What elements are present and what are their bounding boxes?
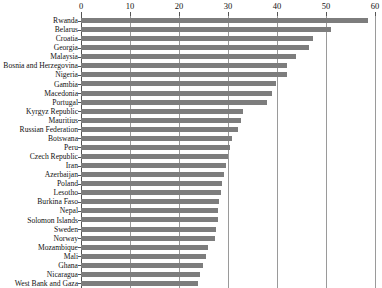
bar: [81, 100, 267, 105]
bar: [81, 208, 218, 213]
bar: [81, 145, 230, 150]
category-label: Croatia: [56, 34, 78, 43]
bar-row: [81, 25, 375, 34]
category-label: Macedonia: [44, 89, 78, 98]
category-label: Solomon Islands: [27, 216, 78, 225]
category-label: Rwanda: [53, 16, 78, 25]
bar: [81, 118, 241, 123]
bar-row: [81, 79, 375, 88]
bar: [81, 227, 216, 232]
category-label: Burkina Faso: [37, 197, 78, 206]
bar-row: [81, 279, 375, 288]
bar-row: [81, 152, 375, 161]
bar: [81, 63, 287, 68]
bar-row: [81, 252, 375, 261]
bar-row: [81, 234, 375, 243]
bar: [81, 27, 331, 32]
category-label: Nigeria: [55, 70, 78, 79]
bar: [81, 91, 272, 96]
category-label: Nicaragua: [47, 270, 78, 279]
category-label: Bosnia and Herzegovina: [3, 61, 78, 70]
bar: [81, 172, 224, 177]
bar-row: [81, 197, 375, 206]
bar-row: [81, 52, 375, 61]
category-label: Malaysia: [50, 52, 78, 61]
category-label: Gambia: [54, 80, 78, 89]
bar: [81, 109, 243, 114]
category-label: Czech Republic: [30, 152, 78, 161]
bar: [81, 54, 296, 59]
bar: [81, 217, 218, 222]
bar-row: [81, 43, 375, 52]
bar-row: [81, 70, 375, 79]
category-label: Mozambique: [38, 243, 78, 252]
category-label: Iran: [66, 161, 78, 170]
category-label: Lesotho: [54, 188, 78, 197]
bar: [81, 254, 206, 259]
category-label: Georgia: [54, 43, 78, 52]
bar-series: [81, 16, 375, 288]
bar: [81, 136, 232, 141]
bar-row: [81, 161, 375, 170]
bar: [81, 272, 200, 277]
category-label: Poland: [57, 179, 78, 188]
category-label: Nepal: [60, 206, 78, 215]
bar: [81, 18, 368, 23]
bar-row: [81, 107, 375, 116]
bar-row: [81, 89, 375, 98]
category-label: Mali: [64, 252, 78, 261]
category-label: Ghana: [58, 261, 78, 270]
category-label: Azerbaijan: [45, 170, 78, 179]
bar: [81, 163, 226, 168]
plot-area: [81, 16, 375, 288]
category-label: Botswana: [48, 134, 78, 143]
bar-row: [81, 134, 375, 143]
bar-row: [81, 179, 375, 188]
category-label: Kyrgyz Republic: [26, 107, 78, 116]
category-label: Mauritius: [48, 116, 78, 125]
bar-row: [81, 61, 375, 70]
horizontal-bar-chart: 0102030405060 RwandaBelarusCroatiaGeorgi…: [0, 0, 382, 288]
category-label: Peru: [64, 143, 78, 152]
bar-row: [81, 143, 375, 152]
category-label: Portugal: [52, 98, 78, 107]
bar-row: [81, 261, 375, 270]
category-axis-labels: RwandaBelarusCroatiaGeorgiaMalaysiaBosni…: [0, 16, 78, 288]
bar: [81, 45, 309, 50]
bar: [81, 263, 203, 268]
bar-row: [81, 116, 375, 125]
bar: [81, 81, 276, 86]
bar-row: [81, 215, 375, 224]
bar-row: [81, 206, 375, 215]
bar-row: [81, 188, 375, 197]
bar-row: [81, 98, 375, 107]
bar-row: [81, 16, 375, 25]
bar: [81, 199, 219, 204]
gridline: [375, 16, 376, 288]
bar-row: [81, 225, 375, 234]
bar: [81, 36, 313, 41]
bar-row: [81, 34, 375, 43]
bar-row: [81, 243, 375, 252]
bar: [81, 245, 208, 250]
bar: [81, 127, 238, 132]
bar: [81, 190, 221, 195]
bar-row: [81, 270, 375, 279]
bar-row: [81, 125, 375, 134]
category-label: Russian Federation: [20, 125, 78, 134]
bar: [81, 181, 222, 186]
bar-row: [81, 170, 375, 179]
category-label: West Bank and Gaza: [15, 279, 78, 288]
bar: [81, 281, 198, 286]
bar: [81, 72, 287, 77]
category-label: Belarus: [55, 25, 78, 34]
category-label: Sweden: [54, 225, 78, 234]
bar: [81, 236, 215, 241]
category-label: Norway: [54, 234, 78, 243]
bar: [81, 154, 228, 159]
